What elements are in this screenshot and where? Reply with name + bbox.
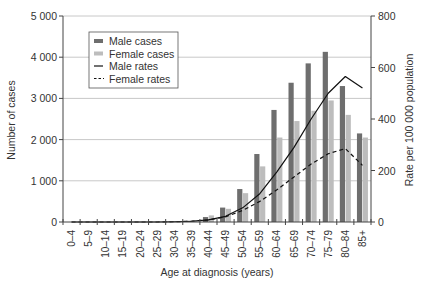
y-tick-label: 5 000: [31, 10, 57, 22]
y-tick-label: 2 000: [31, 134, 57, 146]
bar-female: [329, 100, 334, 222]
x-tick-label: 35–39: [186, 230, 197, 258]
bar-female: [260, 166, 265, 222]
bar-male: [357, 133, 362, 222]
legend-swatch-male-cases: [94, 39, 103, 43]
x-tick-label: 80–84: [340, 230, 351, 258]
legend-label: Male cases: [109, 35, 162, 47]
bar-female: [311, 111, 316, 222]
bar-male: [306, 63, 311, 222]
x-tick-label: 20–24: [135, 230, 146, 258]
y-tick-label: 3 000: [31, 92, 57, 104]
x-tick-label: 10–14: [100, 230, 111, 258]
bar-male: [220, 208, 225, 222]
bar-male: [237, 189, 242, 222]
legend-label: Female rates: [109, 73, 170, 85]
y-axis-label: Number of cases: [5, 80, 17, 159]
line-female-rates: [72, 149, 363, 222]
x-tick-label: 65–69: [289, 230, 300, 258]
bar-female: [277, 138, 282, 222]
bars: [169, 52, 368, 222]
x-tick-label: 55–59: [254, 230, 265, 258]
x-tick-label: 15–19: [117, 230, 128, 258]
chart: 01 0002 0003 0004 0005 00002004006008000…: [0, 0, 422, 290]
y-tick-label: 4 000: [31, 51, 57, 63]
x-tick-label: 5–9: [83, 230, 94, 247]
bar-male: [323, 52, 328, 222]
bar-female: [294, 121, 299, 222]
x-tick-label: 75–79: [323, 230, 334, 258]
bar-female: [363, 138, 368, 222]
bar-female: [346, 115, 351, 222]
y-tick-label: 1 000: [31, 175, 57, 187]
legend-swatch-female-cases: [94, 52, 103, 56]
x-tick-label: 45–49: [220, 230, 231, 258]
y2-tick-label: 800: [378, 10, 396, 22]
y-tick-label: 0: [51, 216, 57, 228]
x-tick-label: 60–64: [271, 230, 282, 258]
y2-tick-label: 600: [378, 62, 396, 74]
y2-tick-label: 0: [378, 216, 384, 228]
x-tick-label: 70–74: [306, 230, 317, 258]
x-tick-label: 85+: [357, 230, 368, 247]
legend-label: Male rates: [109, 60, 158, 72]
legend-label: Female cases: [109, 48, 174, 60]
y2-axis-label: Rate per 100 000 population: [403, 54, 415, 187]
bar-male: [254, 154, 259, 222]
x-tick-label: 0–4: [66, 230, 77, 247]
x-tick-label: 25–29: [152, 230, 163, 258]
x-tick-label: 30–34: [169, 230, 180, 258]
x-tick-label: 50–54: [237, 230, 248, 258]
x-axis-label: Age at diagnosis (years): [160, 266, 273, 278]
bar-male: [340, 86, 345, 222]
bar-male: [271, 110, 276, 222]
legend: Male casesFemale casesMale ratesFemale r…: [89, 32, 178, 88]
y2-tick-label: 200: [378, 165, 396, 177]
y2-tick-label: 400: [378, 113, 396, 125]
x-tick-label: 40–44: [203, 230, 214, 258]
